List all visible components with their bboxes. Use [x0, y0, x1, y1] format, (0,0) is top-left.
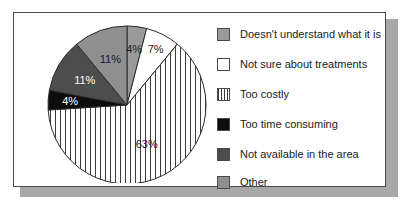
pie-chart-figure: 4%7%63%4%11%11% Doesn't understand what … [0, 0, 414, 210]
legend-label-too-costly: Too costly [240, 88, 289, 101]
legend-item-too-costly[interactable]: Too costly [217, 87, 289, 101]
legend-label-doesnt-understand: Doesn't understand what it is [240, 28, 381, 41]
legend-swatch-too-costly [217, 88, 230, 101]
legend-label-too-time-consuming: Too time consuming [240, 118, 338, 131]
pie-slice-label: 7% [148, 43, 164, 55]
legend-swatch-not-sure-treatments [217, 58, 230, 71]
pie-slice-label: 4% [62, 95, 78, 107]
legend-swatch-too-time-consuming [217, 118, 230, 131]
legend-swatch-not-available-area [217, 148, 230, 161]
legend-item-other[interactable]: Other [217, 175, 268, 189]
chart-panel: 4%7%63%4%11%11% Doesn't understand what … [13, 12, 386, 187]
legend-item-not-sure-treatments[interactable]: Not sure about treatments [217, 57, 367, 71]
pie-slice-label: 63% [136, 138, 158, 150]
pie-slice-label: 4% [126, 43, 142, 55]
pie-chart: 4%7%63%4%11%11% [30, 19, 212, 183]
legend-swatch-other [217, 176, 230, 189]
legend-item-doesnt-understand[interactable]: Doesn't understand what it is [217, 27, 381, 41]
legend-label-other: Other [240, 176, 268, 189]
pie-slice-label: 11% [74, 74, 95, 86]
pie-slice-label: 11% [100, 53, 121, 65]
legend-label-not-sure-treatments: Not sure about treatments [240, 58, 367, 71]
legend-item-not-available-area[interactable]: Not available in the area [217, 147, 359, 161]
pie-svg: 4%7%63%4%11%11% [30, 19, 212, 183]
chart-legend: Doesn't understand what it is Not sure a… [217, 19, 385, 183]
legend-label-not-available-area: Not available in the area [240, 148, 359, 161]
legend-swatch-doesnt-understand [217, 28, 230, 41]
legend-item-too-time-consuming[interactable]: Too time consuming [217, 117, 338, 131]
